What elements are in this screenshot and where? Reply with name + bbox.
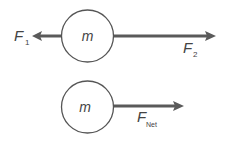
f1-subscript: 1: [25, 38, 30, 47]
bottom-system: m F Net: [62, 81, 185, 133]
f2-label: F: [183, 39, 193, 56]
fnet-arrow: [114, 101, 184, 111]
mass-label-bottom: m: [79, 99, 91, 115]
f1-arrow: [32, 31, 61, 41]
f1-label: F: [14, 27, 24, 44]
top-system: m F 1 F 2: [14, 10, 216, 62]
fnet-subscript: Net: [146, 121, 157, 128]
f2-arrow: [114, 31, 216, 41]
diagram-canvas: m F 1 F 2 m F Net: [0, 0, 229, 142]
f2-subscript: 2: [193, 50, 198, 59]
mass-label-top: m: [82, 28, 94, 44]
force-diagram: m F 1 F 2 m F Net: [0, 0, 229, 142]
